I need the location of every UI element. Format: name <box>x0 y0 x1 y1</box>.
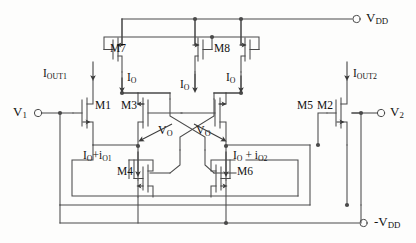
v2-label: V2 <box>390 105 404 120</box>
v2-input-net <box>352 109 385 205</box>
transistor-label-M7: M7 <box>110 43 126 55</box>
transistor-label-M5: M5 <box>297 100 313 112</box>
iout2-label: IOUT2 <box>353 68 377 81</box>
branch-current-left-label: IO+iO1 <box>83 150 112 163</box>
transistor-label-M8: M8 <box>214 43 230 55</box>
transistor-M6 <box>211 160 235 197</box>
mirror-gate-bus <box>104 35 259 50</box>
negative-vdd-rail <box>60 205 367 227</box>
vo-left-label: VO <box>158 124 173 138</box>
cross-coupling-lower-links <box>150 150 236 173</box>
transistor-label-M4: M4 <box>117 166 133 178</box>
transistor-M8 <box>193 19 212 72</box>
branch-current-right-label: IO + iO2 <box>233 150 268 163</box>
transistor-label-M1: M1 <box>95 100 111 112</box>
io-m8-label: IO <box>180 79 190 92</box>
io-m7-label: IO <box>127 72 137 85</box>
iout1-label: IOUT1 <box>43 68 67 81</box>
circuit-schematic-figure: VDD -VDD V1 V2 IOUT1 IOUT2 IO IO IO IO+i… <box>0 0 416 243</box>
v1-label: V1 <box>13 105 27 120</box>
transistor-label-M6: M6 <box>237 166 253 178</box>
vo-right-label: VO <box>196 124 211 138</box>
transistor-label-M3: M3 <box>121 100 137 112</box>
transistor-label-M2: M2 <box>317 100 333 112</box>
vdd-label: VDD <box>366 11 388 26</box>
schematic-canvas <box>0 0 416 243</box>
transistor-M1 <box>73 80 93 145</box>
v1-input-net <box>34 109 73 205</box>
transistor-M2 <box>327 80 347 145</box>
negative-vdd-label: -VDD <box>374 215 400 230</box>
transistor-M8-mirror-leg <box>240 19 259 72</box>
transistor-M5 <box>181 93 241 146</box>
pmos-source-rails <box>122 17 243 45</box>
io-m8b-label: IO <box>226 72 236 85</box>
m2-gate-bus <box>316 113 327 147</box>
